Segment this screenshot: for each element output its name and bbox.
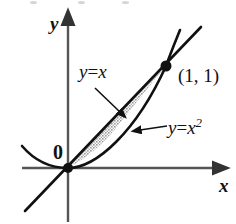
x-axis-label: x [219,176,229,195]
parabola-equation-exponent: 2 [196,115,202,130]
annotation-arrow-line [95,88,120,112]
line-equation-label: y=x [79,62,107,81]
annotation-arrow-parabola [140,126,167,130]
parabola-equation-expression: x [187,117,195,138]
point-coordinate-label: (1, 1) [178,66,219,85]
curve-parabola-y-equals-x-squared [22,30,180,168]
point-one-one-marker [161,61,172,72]
y-axis-label: y [50,14,58,33]
plot-canvas [0,0,236,224]
parabola-equation-operator: = [176,117,187,138]
point-origin-marker [63,163,73,173]
origin-label: 0 [53,142,63,162]
math-figure: y x 0 y=x y=x2 (1, 1) [0,0,236,224]
line-equation-operator: = [87,61,98,82]
parabola-equation-label: y=x2 [168,117,202,137]
line-equation-expression: x [98,61,106,82]
